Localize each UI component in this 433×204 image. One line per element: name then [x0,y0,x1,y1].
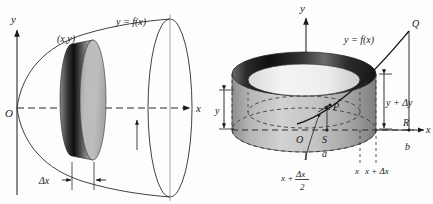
left-thickness-label: Δx [38,175,50,186]
disk-face [80,40,106,160]
right-x-axis-label: x [425,124,431,135]
tick-x-label: x [354,166,359,176]
point-s-label: S [322,134,327,145]
height-y-label: y [214,105,220,116]
right-curve-label: y = f(x) [343,34,375,46]
tick-x-dx-label: x + Δx [364,166,389,176]
cylindrical-shell [232,52,376,152]
limit-a-label: a [322,148,327,159]
right-origin-label: O [296,134,303,145]
height-y-dy-label: y + Δy [385,97,413,108]
point-r-dot [407,128,410,131]
left-point-label: (x,y) [57,33,76,45]
point-q-label: Q [412,18,420,29]
point-r-label: R [402,117,409,128]
svg-text:x +: x + [280,173,293,183]
left-x-axis-label: x [195,102,201,114]
limit-b-label: b [405,141,410,152]
left-curve-label: y = f(x) [115,16,147,28]
left-representative-disk [60,40,106,160]
shell-inner-hole [248,64,360,96]
svg-text:Δx: Δx [295,169,305,179]
svg-text:2: 2 [300,182,305,192]
point-p-label: P [332,101,339,112]
figure-canvas: y x O (x,y) y = f(x) Δx [0,0,433,204]
left-origin-label: O [5,107,13,119]
left-y-axis-label: y [10,13,16,25]
figure-svg: y x O (x,y) y = f(x) Δx [0,0,433,204]
right-y-axis-label: y [299,2,305,14]
